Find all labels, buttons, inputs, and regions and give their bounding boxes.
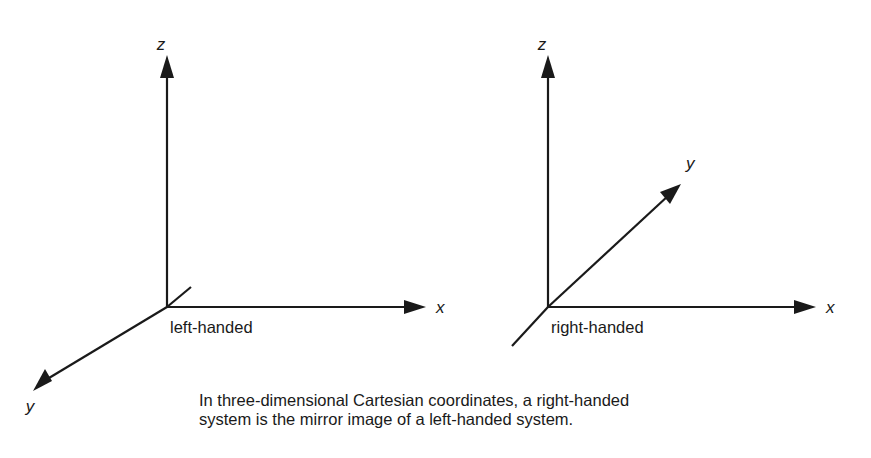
caption-line-2: system is the mirror image of a left-han… — [199, 410, 573, 428]
left-z-axis-arrowhead — [160, 55, 174, 78]
left-x-axis-label: x — [435, 298, 445, 317]
coordinate-systems-diagram: y z x left-handed y z x — [0, 0, 871, 458]
left-handed-system: y z x left-handed — [25, 35, 445, 416]
right-z-axis-arrowhead — [541, 55, 555, 78]
figure-root: y z x left-handed y z x — [0, 0, 871, 458]
right-x-axis-arrowhead — [794, 300, 816, 314]
left-y-axis-line — [44, 307, 167, 381]
right-x-axis-label: x — [825, 298, 835, 317]
figure-caption: In three-dimensional Cartesian coordinat… — [199, 391, 629, 428]
right-handed-system: y z x right-handed — [512, 35, 835, 346]
left-y-axis-stub — [167, 287, 191, 307]
caption-line-1: In three-dimensional Cartesian coordinat… — [199, 391, 629, 409]
right-y-axis-label: y — [685, 154, 696, 173]
left-z-axis-label: z — [156, 35, 166, 54]
left-x-axis-arrowhead — [404, 300, 426, 314]
left-y-axis-arrowhead — [33, 369, 52, 391]
right-y-axis-stub — [512, 307, 548, 346]
right-z-axis-label: z — [537, 35, 547, 54]
right-handed-label: right-handed — [551, 318, 644, 336]
left-handed-label: left-handed — [170, 318, 253, 336]
left-y-axis-label: y — [25, 397, 36, 416]
right-y-axis-line — [548, 195, 669, 307]
